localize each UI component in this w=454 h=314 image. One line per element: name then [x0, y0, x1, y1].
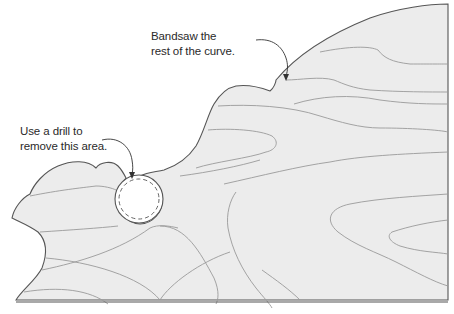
drilled-hole — [115, 175, 163, 223]
bandsaw-annotation: Bandsaw the rest of the curve. — [151, 29, 235, 59]
bandsaw-annotation-line-2: rest of the curve. — [151, 44, 235, 59]
drill-annotation-line-2: remove this area. — [20, 139, 107, 154]
bandsaw-leader — [256, 40, 288, 76]
bandsaw-annotation-line-1: Bandsaw the — [151, 29, 235, 44]
drill-annotation-line-1: Use a drill to — [20, 124, 107, 139]
drill-annotation: Use a drill to remove this area. — [20, 124, 107, 154]
